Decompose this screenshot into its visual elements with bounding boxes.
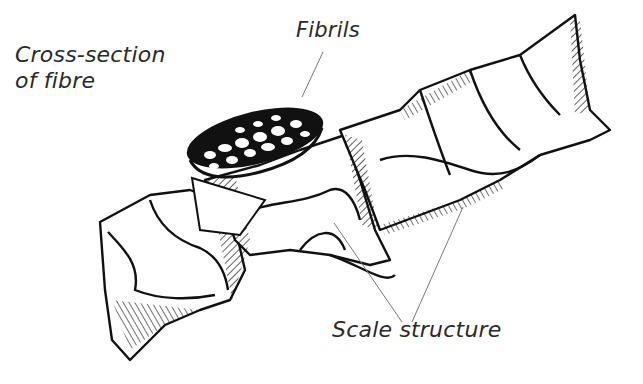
cross-section-label: Cross-section of fibre [15, 42, 166, 95]
fibre-diagram: Cross-section of fibre Fibrils Scale str… [0, 0, 643, 384]
scale-structure-label: Scale structure [332, 317, 502, 343]
leader-line-fibrils [302, 52, 323, 97]
cross-section-label-line2: of fibre [15, 68, 166, 94]
leader-line-scale-2 [412, 207, 463, 322]
fibrils-label: Fibrils [296, 18, 360, 43]
cross-section-label-line1: Cross-section [15, 42, 166, 68]
